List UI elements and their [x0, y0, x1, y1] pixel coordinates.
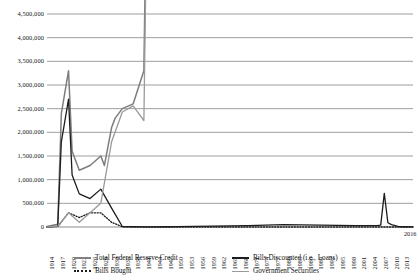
series-line	[47, 0, 413, 227]
y-tick-label: 4,500,000	[0, 11, 44, 17]
federal-reserve-credit-chart: 0500,0001,000,0001,500,0002,000,0002,500…	[0, 0, 418, 280]
legend-item: Bills Bought	[74, 268, 226, 275]
y-tick-label: 2,500,000	[0, 105, 44, 111]
legend-label: Bills Discounted (i.e., Loans)	[253, 255, 338, 262]
y-tick-label: 0	[0, 224, 44, 230]
legend-label: Bills Bought	[95, 268, 132, 275]
legend-swatch-icon	[74, 257, 91, 259]
x-tick-label: 1914	[49, 257, 55, 269]
legend-swatch-icon	[232, 257, 249, 259]
x-tick-label: 2016	[404, 231, 416, 237]
x-tick-label: 1917	[60, 257, 66, 269]
chart-legend: Total Federal Reserve CreditBills Discou…	[74, 252, 404, 278]
legend-item: Bills Discounted (i.e., Loans)	[232, 255, 404, 262]
y-tick-label: 2,000,000	[0, 129, 44, 135]
legend-swatch-icon	[232, 271, 249, 272]
y-tick-label: 500,000	[0, 200, 44, 206]
y-tick-label: 1,000,000	[0, 176, 44, 182]
y-tick-label: 4,000,000	[0, 34, 44, 40]
legend-item: Government Securities	[232, 268, 404, 275]
y-tick-label: 3,000,000	[0, 82, 44, 88]
series-lines	[47, 14, 413, 227]
plot-area	[47, 14, 413, 227]
series-line	[47, 0, 413, 227]
legend-swatch-icon	[74, 270, 91, 272]
legend-item: Total Federal Reserve Credit	[74, 255, 226, 262]
legend-label: Government Securities	[253, 268, 319, 275]
y-tick-label: 3,500,000	[0, 58, 44, 64]
y-tick-label: 1,500,000	[0, 153, 44, 159]
legend-label: Total Federal Reserve Credit	[95, 255, 178, 262]
y-axis: 0500,0001,000,0001,500,0002,000,0002,500…	[0, 0, 44, 241]
series-line	[47, 213, 413, 227]
x-tick-label: 2013	[404, 257, 410, 269]
series-line	[47, 99, 413, 227]
